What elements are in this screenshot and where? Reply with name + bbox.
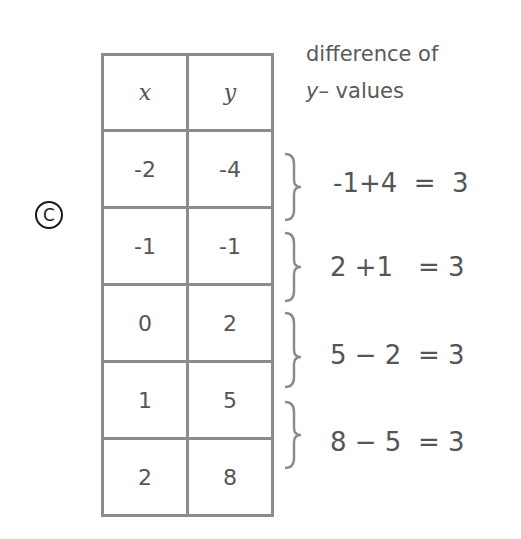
brace-icon	[282, 152, 306, 222]
cell-y: 8	[189, 440, 271, 514]
cell-x: 0	[104, 286, 189, 360]
difference-equation: 2 +1 = 3	[330, 252, 465, 282]
brace-icon	[282, 231, 306, 303]
cell-y: -1	[189, 209, 271, 283]
table-row: 0 2	[101, 286, 274, 363]
difference-label: difference of y– values	[306, 36, 438, 110]
header-x: x	[104, 56, 189, 129]
answer-choice-c-marker: C	[35, 201, 63, 229]
brace-icon	[282, 311, 306, 389]
table-row: 1 5	[101, 363, 274, 440]
brace-icon	[282, 400, 306, 470]
difference-label-line2: y– values	[306, 73, 438, 110]
xy-table: x y -2 -4 -1 -1 0 2 1 5 2 8	[101, 53, 274, 517]
cell-x: -1	[104, 209, 189, 283]
cell-x: -2	[104, 132, 189, 206]
cell-x: 1	[104, 363, 189, 437]
table-row: -2 -4	[101, 132, 274, 209]
header-y: y	[189, 56, 271, 129]
difference-equation: 5 − 2 = 3	[330, 340, 465, 370]
cell-y: -4	[189, 132, 271, 206]
difference-label-line1: difference of	[306, 36, 438, 73]
cell-y: 5	[189, 363, 271, 437]
difference-equation: -1+4 = 3	[333, 168, 469, 198]
cell-y: 2	[189, 286, 271, 360]
cell-x: 2	[104, 440, 189, 514]
table-row: 2 8	[101, 440, 274, 517]
choice-letter: C	[43, 207, 55, 224]
table-row: -1 -1	[101, 209, 274, 286]
table-header-row: x y	[101, 53, 274, 132]
difference-equation: 8 − 5 = 3	[330, 427, 465, 457]
